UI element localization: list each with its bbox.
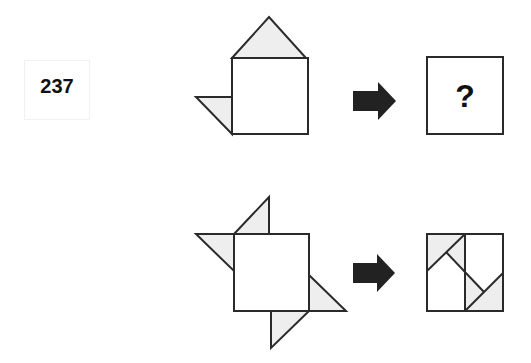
shaded-triangle [196, 234, 234, 271]
shaded-triangle [196, 97, 232, 134]
arrow-head [378, 82, 396, 120]
question-row: ? [196, 17, 503, 134]
arrow-shaft [353, 263, 377, 283]
arrow-right-icon [353, 82, 396, 120]
arrow-shaft [353, 91, 378, 111]
shaded-triangle [271, 311, 309, 348]
arrow-right-icon [353, 254, 395, 292]
source-figure-top [196, 17, 308, 134]
square [232, 58, 308, 134]
question-mark: ? [455, 78, 475, 114]
example-row [196, 197, 503, 348]
square [234, 234, 309, 311]
shaded-triangle [234, 197, 269, 234]
shaded-triangle [232, 17, 306, 58]
answer-box-folded-example [427, 234, 503, 311]
arrow-head [377, 254, 395, 292]
shaded-triangle [309, 275, 346, 311]
puzzle-diagram: ? [0, 0, 531, 363]
answer-box-question[interactable]: ? [427, 57, 503, 134]
source-figure-bottom [196, 197, 346, 348]
